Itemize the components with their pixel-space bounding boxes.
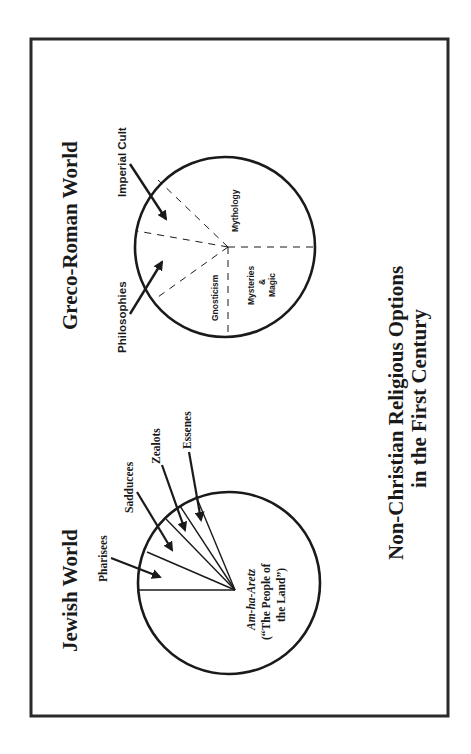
essenes-arrow: [189, 452, 201, 520]
pharisees-arrow: [111, 558, 160, 577]
zealots-arrow: [162, 465, 185, 530]
philosophies-label: Philosophies: [116, 281, 128, 353]
main-title: Non-Christian Religious Options in the F…: [384, 266, 431, 560]
zealots-label: Zealots: [150, 428, 162, 464]
people-of-label: (“The People of: [260, 563, 273, 640]
magic-label: Magic: [267, 273, 277, 297]
greco-roman-heading: Greco-Roman World: [58, 141, 82, 330]
mysteries-label: Mysteries: [246, 266, 256, 305]
jewish-wedge-lines: [139, 496, 235, 590]
sadducees-label: Sadducees: [123, 461, 135, 513]
am-ha-aretz-label: Am-ha-Aretz: [245, 568, 257, 631]
the-land-label: the Land”): [275, 568, 288, 622]
imperial-cult-label: Imperial Cult: [116, 127, 128, 197]
jewish-section: Jewish World Pharisees Sadducees Zealots…: [58, 411, 320, 674]
imperial-cult-arrow: [130, 164, 166, 219]
essenes-label: Essenes: [181, 411, 193, 449]
sadducees-arrow: [137, 492, 172, 550]
mythology-label: Mythology: [230, 189, 240, 232]
ampersand-label: &: [257, 279, 267, 285]
pharisees-label: Pharisees: [97, 535, 109, 582]
title-line-1: Non-Christian Religious Options: [384, 266, 408, 560]
jewish-heading: Jewish World: [58, 529, 82, 652]
title-line-2: in the First Century: [407, 308, 431, 488]
greco-roman-section: Greco-Roman World Imperial Cult Philosop…: [58, 127, 315, 353]
diagram-canvas: Greco-Roman World Imperial Cult Philosop…: [0, 0, 471, 754]
gnosticism-label: Gnosticism: [210, 274, 220, 321]
